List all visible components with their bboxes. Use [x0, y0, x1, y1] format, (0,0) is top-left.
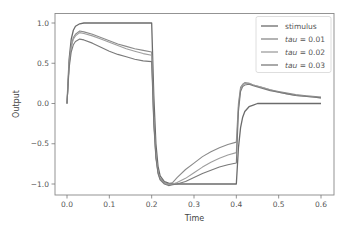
y-tick-label: 0.0 [37, 99, 49, 108]
legend-entry-label: tau = 0.02 [285, 48, 325, 57]
x-tick-label: 0.5 [273, 200, 285, 209]
legend-entry-label: tau = 0.01 [285, 35, 325, 44]
line-chart: 0.00.10.20.30.40.50.6 1.00.50.0−0.5−1.0 … [0, 0, 352, 231]
y-axis-label: Output [12, 90, 21, 118]
x-axis-label: Time [184, 214, 205, 223]
legend-entry-label: tau = 0.03 [285, 61, 325, 70]
legend-entry-label: stimulus [285, 22, 317, 31]
x-tick-label: 0.0 [61, 200, 73, 209]
y-tick-label: −1.0 [31, 180, 49, 189]
legend: stimulustau = 0.01tau = 0.02tau = 0.03 [256, 17, 331, 73]
x-tick-label: 0.1 [103, 200, 115, 209]
x-tick-label: 0.3 [188, 200, 200, 209]
x-tick-label: 0.6 [315, 200, 327, 209]
x-tick-label: 0.4 [230, 200, 242, 209]
x-tick-label: 0.2 [146, 200, 158, 209]
y-tick-label: 0.5 [37, 59, 49, 68]
y-tick-label: 1.0 [37, 19, 49, 28]
y-tick-label: −0.5 [31, 139, 49, 148]
